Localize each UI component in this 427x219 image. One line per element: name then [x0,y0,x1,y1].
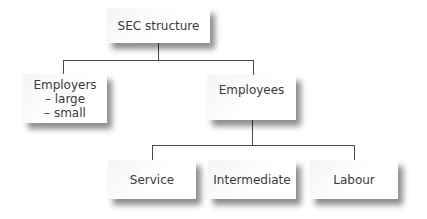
node-label: Service [130,173,174,187]
node-employers: Employers – large – small [23,74,107,123]
node-sub-item: – large [45,92,85,106]
node-label: Labour [333,173,375,187]
node-label: Intermediate [213,173,290,187]
connector-labour [354,145,355,160]
connector-employees [253,60,254,75]
node-label: Employers [33,78,96,92]
node-intermediate: Intermediate [208,160,296,199]
connector-employees-down [252,120,253,146]
connector-level1-bar [63,60,254,61]
connector-employers [63,60,64,74]
node-employees: Employees [207,75,296,120]
node-service: Service [108,160,196,199]
node-sec-structure: SEC structure [107,8,210,43]
connector-root-down [158,42,159,60]
connector-level2-bar [152,145,355,146]
node-labour: Labour [310,160,398,199]
node-label: Employees [219,83,285,97]
connector-service [152,145,153,160]
node-label: SEC structure [118,19,200,33]
node-sub-item: – small [44,106,86,120]
